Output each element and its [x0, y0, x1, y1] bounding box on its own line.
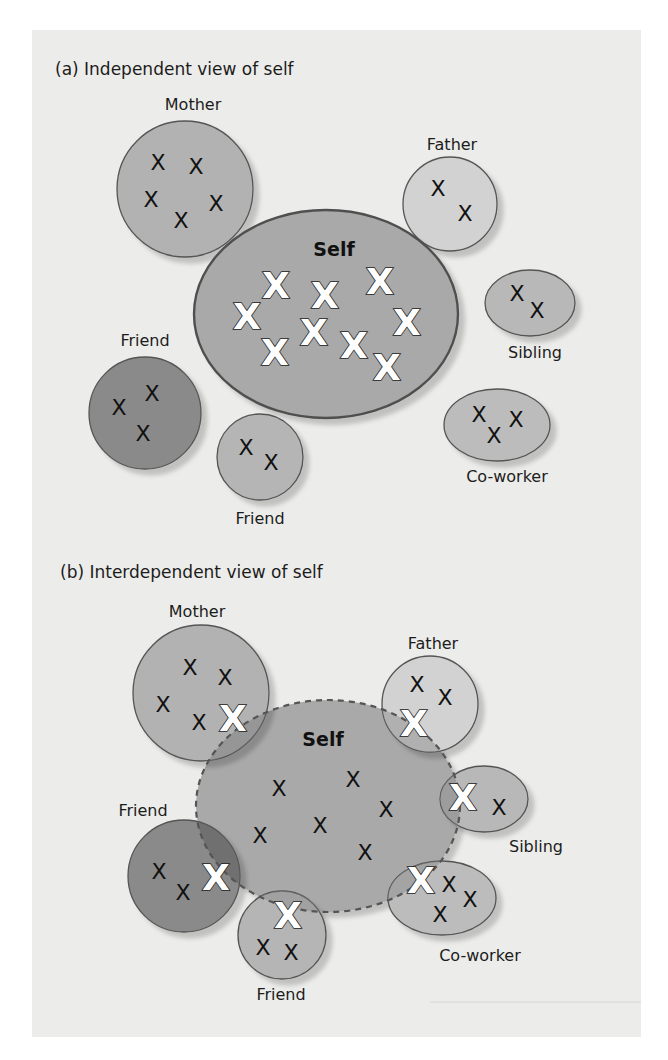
father-label: Father	[408, 634, 459, 653]
shared-x-marker-mother: X	[219, 698, 247, 739]
x-marker: X	[409, 672, 424, 697]
friend-left-label: Friend	[120, 331, 169, 350]
shared-x-marker-friend-left: X	[202, 857, 230, 898]
self-x-marker: X	[262, 265, 290, 306]
x-marker: X	[155, 692, 170, 717]
shared-x-marker-friend-bottom: X	[274, 895, 302, 936]
father-circle-b: Father X X	[382, 634, 478, 752]
x-marker: X	[217, 665, 232, 690]
x-marker: X	[271, 776, 286, 801]
x-marker: X	[111, 395, 126, 420]
panel-a-title: (a) Independent view of self	[55, 59, 295, 79]
mother-label: Mother	[165, 95, 222, 114]
mother-label: Mother	[169, 602, 226, 621]
self-x-marker: X	[261, 332, 289, 373]
shared-x-marker-coworker: X	[407, 860, 435, 901]
x-marker: X	[462, 887, 477, 912]
shared-x-marker-sibling: X	[449, 777, 477, 818]
x-marker: X	[457, 201, 472, 226]
x-marker: X	[182, 655, 197, 680]
self-x-marker: X	[373, 347, 401, 388]
sibling-label: Sibling	[508, 343, 562, 362]
x-marker: X	[441, 872, 456, 897]
mother-circle-b: Mother X X X X	[133, 602, 269, 761]
sibling-label: Sibling	[509, 837, 563, 856]
x-marker: X	[135, 421, 150, 446]
friend-bottom-label: Friend	[235, 509, 284, 528]
coworker-label: Co-worker	[439, 946, 521, 965]
x-marker: X	[188, 154, 203, 179]
x-marker: X	[143, 187, 158, 212]
sibling-ellipse-a: X X Sibling	[485, 270, 575, 362]
self-label: Self	[313, 238, 355, 260]
x-marker: X	[471, 402, 486, 427]
x-marker: X	[509, 281, 524, 306]
coworker-label: Co-worker	[466, 467, 548, 486]
x-marker: X	[491, 795, 506, 820]
x-marker: X	[173, 208, 188, 233]
x-marker: X	[430, 176, 445, 201]
x-marker: X	[432, 902, 447, 927]
friend-bottom-label: Friend	[256, 985, 305, 1004]
coworker-ellipse-a: X X X Co-worker	[444, 389, 550, 486]
self-x-marker: X	[300, 312, 328, 353]
x-marker: X	[255, 935, 270, 960]
x-marker: X	[263, 450, 278, 475]
shared-x-marker-father: X	[400, 703, 428, 744]
x-marker: X	[437, 685, 452, 710]
panel-b: (b) Interdependent view of self Mother X…	[60, 562, 563, 1004]
self-x-marker: X	[340, 325, 368, 366]
self-ellipse-a: Self X X X X X X X X X	[194, 210, 458, 418]
friend-left-label: Friend	[118, 801, 167, 820]
friend-bottom-circle-a: X X Friend	[217, 414, 303, 528]
self-construal-diagram: (a) Independent view of self Mother X X …	[0, 0, 668, 1060]
panel-a: (a) Independent view of self Mother X X …	[55, 59, 575, 528]
father-circle-a: Father X X	[403, 135, 497, 251]
self-x-marker: X	[233, 296, 261, 337]
x-marker: X	[283, 940, 298, 965]
x-marker: X	[486, 423, 501, 448]
x-marker: X	[151, 859, 166, 884]
x-marker: X	[252, 823, 267, 848]
x-marker: X	[529, 298, 544, 323]
panel-b-title: (b) Interdependent view of self	[60, 562, 324, 582]
friend-left-circle-a: Friend X X X	[89, 331, 201, 469]
x-marker: X	[208, 191, 223, 216]
self-label: Self	[302, 728, 344, 750]
self-x-marker: X	[366, 261, 394, 302]
father-label: Father	[427, 135, 478, 154]
x-marker: X	[150, 150, 165, 175]
x-marker: X	[508, 407, 523, 432]
x-marker: X	[175, 880, 190, 905]
x-marker: X	[357, 840, 372, 865]
x-marker: X	[378, 797, 393, 822]
x-marker: X	[345, 767, 360, 792]
mother-circle-a: Mother X X X X X	[117, 95, 253, 257]
self-x-marker: X	[393, 302, 421, 343]
x-marker: X	[191, 710, 206, 735]
self-x-marker: X	[311, 275, 339, 316]
x-marker: X	[144, 381, 159, 406]
x-marker: X	[312, 813, 327, 838]
x-marker: X	[238, 435, 253, 460]
